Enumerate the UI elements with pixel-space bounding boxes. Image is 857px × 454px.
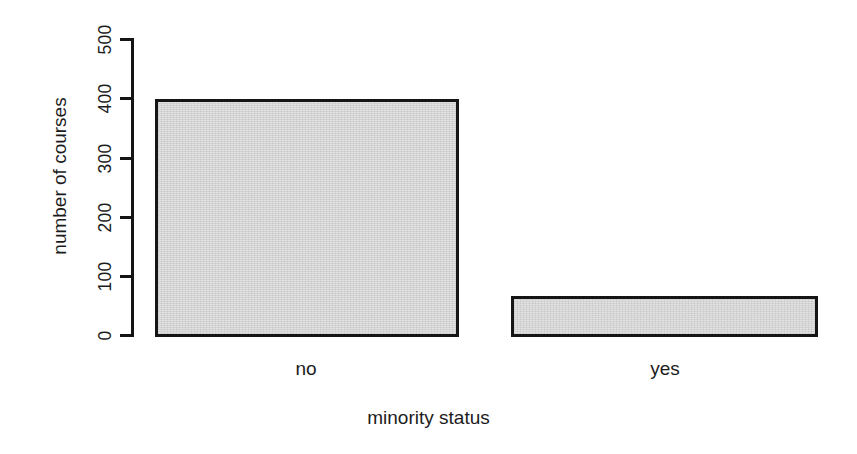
y-axis-tick-0 [120, 334, 134, 337]
y-axis-tick-400 [120, 97, 134, 100]
x-axis-tick-label-yes: yes [565, 358, 765, 380]
y-axis-tick-label-400: 400 [95, 69, 116, 129]
y-axis-line [131, 39, 134, 337]
y-axis-tick-200 [120, 216, 134, 219]
y-axis-tick-label-500: 500 [95, 10, 116, 70]
bar-yes [511, 296, 818, 337]
y-axis-tick-label-100: 100 [95, 247, 116, 307]
y-axis-tick-label-0: 0 [95, 306, 116, 366]
y-axis-tick-500 [120, 38, 134, 41]
y-axis-title: number of courses [49, 66, 71, 286]
x-axis-tick-label-no: no [206, 358, 406, 380]
bar-no [155, 99, 459, 337]
y-axis-tick-label-300: 300 [95, 129, 116, 189]
x-axis-title: minority status [0, 407, 857, 429]
y-axis-tick-100 [120, 275, 134, 278]
y-axis-tick-label-200: 200 [95, 188, 116, 248]
y-axis-tick-300 [120, 157, 134, 160]
bar-chart: 500 400 300 200 100 0 number of courses … [0, 0, 857, 454]
